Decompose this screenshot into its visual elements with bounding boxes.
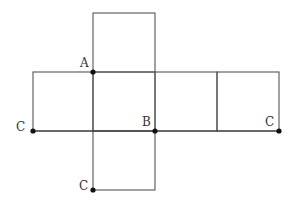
right-face-1 bbox=[155, 72, 217, 131]
label-c-left: C bbox=[16, 121, 25, 133]
label-c-right: C bbox=[265, 116, 274, 128]
point-c-left bbox=[30, 128, 35, 133]
label-a: A bbox=[80, 57, 89, 69]
label-b: B bbox=[142, 116, 151, 128]
cube-net-diagram bbox=[0, 0, 290, 203]
bottom-face bbox=[93, 131, 155, 190]
point-c-bottom bbox=[90, 187, 95, 192]
point-a bbox=[90, 69, 95, 74]
left-face bbox=[33, 72, 93, 131]
point-c-right bbox=[276, 128, 281, 133]
point-b bbox=[152, 128, 157, 133]
label-c-bottom: C bbox=[79, 180, 88, 192]
top-face bbox=[93, 13, 155, 72]
